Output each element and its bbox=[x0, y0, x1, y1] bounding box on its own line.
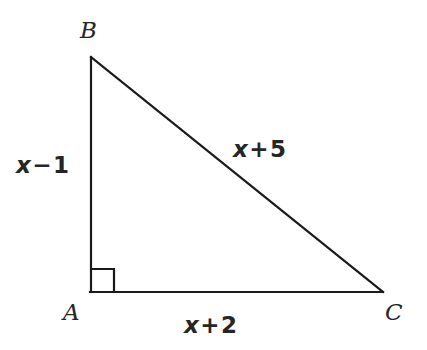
vertex-label-c: C bbox=[385, 301, 403, 324]
side-length-label-ab: x−1 bbox=[16, 154, 69, 177]
constant-term: 2 bbox=[221, 312, 237, 338]
operator-minus: − bbox=[31, 152, 53, 178]
variable-x: x bbox=[184, 312, 199, 338]
vertex-label-b: B bbox=[80, 19, 97, 42]
operator-plus: + bbox=[199, 312, 221, 338]
variable-x: x bbox=[16, 152, 31, 178]
constant-term: 1 bbox=[53, 152, 69, 178]
operator-plus: + bbox=[248, 136, 270, 162]
vertex-label-a: A bbox=[63, 301, 80, 324]
side-length-label-bc: x+5 bbox=[233, 138, 286, 161]
variable-x: x bbox=[233, 136, 248, 162]
side-length-label-ac: x+2 bbox=[184, 314, 237, 337]
right-angle-marker-icon bbox=[91, 269, 114, 292]
constant-term: 5 bbox=[270, 136, 286, 162]
segment-bc bbox=[91, 57, 383, 292]
geometry-figure: B A C x−1 x+5 x+2 bbox=[0, 0, 427, 350]
